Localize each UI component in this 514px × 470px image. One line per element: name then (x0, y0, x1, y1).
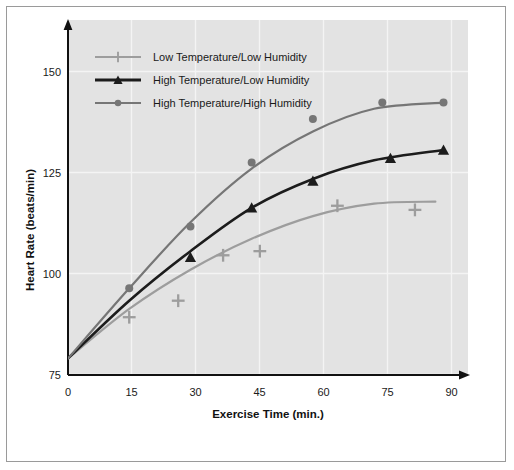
y-tick-75: 75 (49, 369, 61, 381)
legend-label: Low Temperature/Low Humidity (153, 51, 307, 63)
y-tick-150: 150 (43, 66, 61, 78)
y-tick-125: 125 (43, 167, 61, 179)
data-point-circle (248, 158, 256, 166)
data-point-circle (186, 222, 194, 230)
x-tick-90: 90 (445, 386, 457, 398)
x-tick-60: 60 (317, 386, 329, 398)
data-point-circle (115, 100, 122, 107)
legend-label: High Temperature/Low Humidity (153, 74, 310, 86)
x-axis-title: Exercise Time (min.) (212, 408, 324, 420)
data-point-circle (440, 99, 448, 107)
data-point-circle (378, 99, 386, 107)
chart-svg: 150 125 100 75 0 15 30 45 60 75 90 Exerc… (0, 0, 514, 470)
heart-rate-chart: 150 125 100 75 0 15 30 45 60 75 90 Exerc… (0, 0, 514, 470)
data-point-circle (125, 284, 133, 292)
x-tick-labels: 0 15 30 45 60 75 90 (65, 386, 458, 398)
x-tick-30: 30 (189, 386, 201, 398)
legend-label: High Temperature/High Humidity (153, 97, 312, 109)
x-tick-15: 15 (125, 386, 137, 398)
y-tick-100: 100 (43, 268, 61, 280)
y-tick-labels: 150 125 100 75 (43, 66, 61, 381)
y-axis-title: Heart Rate (beats/min) (24, 169, 36, 291)
data-point-circle (309, 115, 317, 123)
x-tick-0: 0 (65, 386, 71, 398)
x-tick-45: 45 (253, 386, 265, 398)
x-tick-75: 75 (381, 386, 393, 398)
